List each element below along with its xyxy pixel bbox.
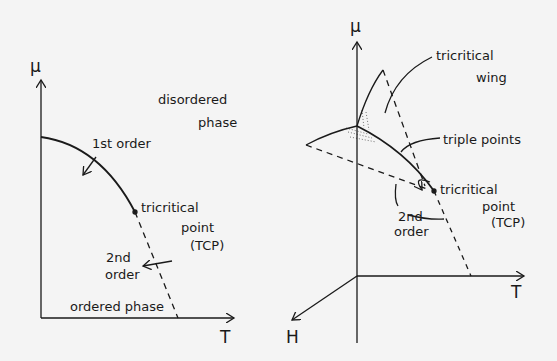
first-order-label: 1st order — [92, 136, 152, 151]
wing-label-1: tricritical — [436, 48, 494, 63]
tcp-label-1: tricritical — [141, 200, 199, 215]
wing-edge-upper — [357, 70, 383, 126]
left-t-label: T — [219, 327, 231, 347]
h-axis-3d — [292, 276, 357, 320]
wing-leader — [385, 57, 432, 113]
wing-label-2: wing — [476, 70, 507, 85]
second-order-leader-3d — [395, 184, 398, 206]
second-order3d-label-1: 2nd — [398, 209, 423, 224]
second-order-label-1: 2nd — [106, 250, 131, 265]
second-order-label-2: order — [105, 267, 140, 282]
tcp-label-3: (TCP) — [190, 238, 224, 253]
triple-points-label: triple points — [443, 132, 521, 147]
tcp3d-label-3: (TCP) — [491, 215, 525, 230]
second-order3d-label-2: order — [394, 224, 429, 239]
second-order-line-3d — [434, 191, 471, 276]
tcp-dot — [133, 210, 137, 214]
tcp-dot-3d — [432, 189, 436, 193]
right-t-label: T — [510, 282, 522, 302]
wing-dash-upper — [383, 70, 425, 186]
ordered-phase-label: ordered phase — [70, 299, 164, 314]
left-mu-label: μ — [30, 56, 41, 76]
tcp-label-2: point — [181, 220, 214, 235]
tcp3d-label-1: tricritical — [440, 182, 498, 197]
triple-leader — [401, 138, 440, 152]
phase-diagrams: μ T disordered phase 1st order tricritic… — [0, 0, 557, 361]
phase-label: phase — [198, 115, 237, 130]
tcp3d-label-2: point — [482, 199, 515, 214]
right-h-label: H — [286, 327, 299, 347]
right-mu-label: μ — [350, 16, 361, 36]
disordered-label: disordered — [158, 92, 227, 107]
wing-dash-left — [306, 145, 430, 190]
triple-line — [357, 126, 434, 191]
second-order-arrow — [143, 261, 172, 266]
first-order-arrow — [83, 157, 96, 175]
